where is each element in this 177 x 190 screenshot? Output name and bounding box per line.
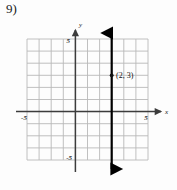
x-tick-positive-5: 5 [144, 114, 148, 122]
point-label: (2, 3) [116, 71, 134, 80]
point-marker [110, 73, 114, 77]
coordinate-plane: y x 5 -5 -5 5 (2, 3) [0, 0, 177, 190]
x-axis-label: x [164, 108, 169, 116]
worksheet-graph-problem: 9) [0, 0, 177, 190]
y-tick-positive-5: 5 [67, 37, 71, 45]
x-tick-negative-5: -5 [21, 114, 27, 122]
grid-lines [27, 39, 148, 160]
y-tick-negative-5: -5 [66, 154, 72, 162]
y-axis-label: y [78, 21, 83, 29]
